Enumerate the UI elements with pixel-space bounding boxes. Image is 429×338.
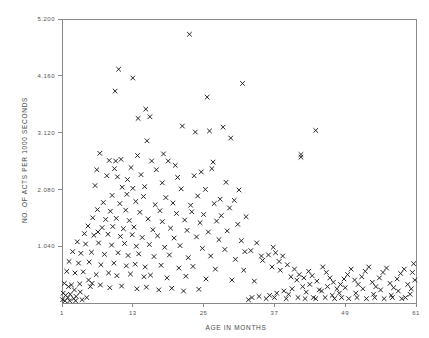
data-point: [105, 173, 110, 178]
data-point: [377, 276, 382, 281]
data-point: [325, 284, 330, 289]
data-point: [315, 279, 320, 284]
data-point: [304, 290, 309, 295]
data-point: [193, 130, 198, 135]
data-point: [99, 262, 104, 267]
data-point: [84, 295, 89, 300]
data-point: [408, 292, 413, 297]
data-point: [343, 285, 348, 290]
data-point: [79, 251, 84, 256]
data-point: [64, 269, 69, 274]
data-point: [159, 263, 164, 268]
data-point: [112, 261, 117, 266]
data-point: [93, 183, 98, 188]
data-point: [257, 294, 262, 299]
data-point: [228, 136, 233, 141]
data-point: [237, 188, 242, 193]
data-point: [74, 294, 79, 299]
data-point: [213, 267, 218, 272]
data-point: [328, 276, 333, 281]
data-point: [274, 291, 279, 296]
data-point: [254, 241, 259, 246]
data-point: [367, 265, 372, 270]
data-point: [345, 272, 350, 277]
data-point: [72, 288, 77, 293]
data-point: [70, 249, 75, 254]
data-point: [239, 238, 244, 243]
data-point: [86, 224, 91, 229]
data-point: [77, 282, 82, 287]
data-point: [148, 114, 153, 119]
data-point: [102, 252, 107, 257]
data-point: [113, 89, 118, 94]
data-point: [296, 295, 301, 300]
data-point: [142, 184, 147, 189]
data-point: [337, 291, 342, 296]
data-point: [116, 250, 121, 255]
data-point: [382, 296, 387, 301]
data-point: [402, 267, 407, 272]
data-point: [243, 249, 248, 254]
data-point: [106, 232, 111, 237]
data-point: [89, 250, 94, 255]
data-point: [259, 254, 264, 259]
data-point: [188, 203, 193, 208]
scatter-plot-figure: 11325374961 1.0402.0803.1204.1605.200 AG…: [0, 0, 429, 338]
data-point: [292, 267, 297, 272]
data-point: [129, 165, 134, 170]
data-point: [130, 232, 135, 237]
data-point: [81, 270, 86, 275]
data-point: [167, 253, 172, 258]
data-point: [90, 216, 95, 221]
data-point: [410, 270, 415, 275]
data-point: [169, 286, 174, 291]
data-point: [115, 273, 120, 278]
data-point: [207, 129, 212, 134]
data-point: [143, 265, 148, 270]
data-point: [192, 173, 197, 178]
data-point: [289, 274, 294, 279]
data-point: [118, 201, 123, 206]
data-point: [198, 220, 203, 225]
data-point: [149, 159, 154, 164]
data-point: [174, 211, 179, 216]
data-point: [190, 209, 195, 214]
data-point: [331, 280, 336, 285]
data-point: [143, 107, 148, 112]
data-point: [119, 284, 124, 289]
data-point: [115, 175, 120, 180]
data-point: [75, 240, 80, 245]
data-point: [260, 258, 265, 263]
data-point: [286, 292, 291, 297]
data-point: [224, 180, 229, 185]
x-tick-labels: 11325374961: [60, 310, 420, 316]
data-point: [218, 197, 223, 202]
data-point: [119, 157, 124, 162]
data-point: [98, 283, 103, 288]
data-point: [101, 200, 106, 205]
data-point: [208, 254, 213, 259]
data-point: [302, 276, 307, 281]
data-point: [82, 231, 87, 236]
data-point: [398, 271, 403, 276]
data-point: [107, 158, 112, 163]
y-tick-label: 5.200: [37, 16, 55, 22]
x-tick-label: 49: [341, 310, 349, 316]
data-point: [67, 259, 72, 264]
data-point: [114, 216, 119, 221]
data-point: [194, 235, 199, 240]
data-markers: [60, 32, 417, 303]
data-point: [266, 253, 271, 258]
data-point: [108, 209, 113, 214]
data-point: [141, 194, 146, 199]
data-point: [142, 274, 147, 279]
data-point: [126, 253, 131, 258]
data-point: [92, 233, 97, 238]
data-point: [197, 287, 202, 292]
data-point: [87, 260, 92, 265]
data-point: [290, 287, 295, 292]
data-point: [310, 273, 315, 278]
data-point: [232, 198, 237, 203]
data-point: [388, 281, 393, 286]
data-point: [381, 270, 386, 275]
